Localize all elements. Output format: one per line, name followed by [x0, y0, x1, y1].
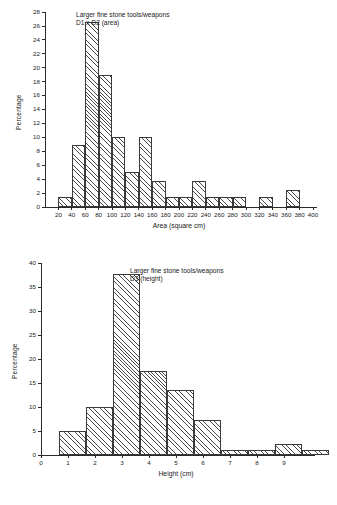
- x-tick: [232, 207, 233, 210]
- x-tick: [205, 207, 206, 210]
- x-tick-label: 6: [193, 460, 213, 466]
- bar: [112, 137, 125, 207]
- chart-annotation: Larger fine stone tools/weapons D3 (heig…: [130, 267, 223, 284]
- bar: [221, 450, 248, 455]
- bar: [179, 197, 192, 207]
- x-tick: [299, 207, 300, 210]
- x-tick: [138, 207, 139, 210]
- x-tick-label: 3: [112, 460, 132, 466]
- figure-two-histograms: 0246810121416182022242628204060801001201…: [0, 0, 337, 505]
- bars-layer: [0, 263, 337, 455]
- bar: [139, 137, 152, 207]
- bar: [113, 274, 140, 455]
- bars-layer: [0, 12, 337, 207]
- chart-height-histogram: 05101520253035400123456789PercentageHeig…: [0, 250, 337, 505]
- x-tick: [149, 455, 150, 458]
- x-tick-label: 1: [58, 460, 78, 466]
- x-tick: [284, 455, 285, 458]
- x-tick-label: 2: [85, 460, 105, 466]
- x-tick: [68, 455, 69, 458]
- bar: [248, 450, 275, 455]
- x-axis-title: Area (square cm): [45, 222, 313, 229]
- x-tick: [125, 207, 126, 210]
- x-tick: [257, 455, 258, 458]
- bar: [152, 181, 165, 207]
- x-tick: [41, 455, 42, 458]
- x-tick: [203, 455, 204, 458]
- bar: [286, 190, 299, 207]
- bar: [206, 197, 219, 207]
- x-tick-label: 8: [247, 460, 267, 466]
- x-tick: [165, 207, 166, 210]
- x-tick: [219, 207, 220, 210]
- x-tick: [259, 207, 260, 210]
- bar: [72, 145, 85, 207]
- y-axis-title: Percentage: [11, 343, 18, 379]
- bar: [192, 181, 205, 207]
- plot-region-area: 0246810121416182022242628204060801001201…: [0, 0, 337, 250]
- x-tick: [286, 207, 287, 210]
- x-tick: [313, 207, 314, 210]
- x-tick: [272, 207, 273, 210]
- x-tick: [246, 207, 247, 210]
- bar: [275, 444, 302, 455]
- bar: [166, 197, 179, 207]
- bar: [219, 197, 232, 207]
- x-tick: [112, 207, 113, 210]
- x-axis-line: [41, 455, 315, 456]
- x-tick-label: 400: [303, 212, 323, 218]
- bar: [59, 431, 86, 455]
- bar: [167, 390, 194, 455]
- bar: [125, 172, 138, 207]
- x-tick: [152, 207, 153, 210]
- x-tick: [85, 207, 86, 210]
- bar: [259, 197, 272, 207]
- x-tick: [71, 207, 72, 210]
- chart-annotation: Larger fine stone tools/weapons D1 x D2 …: [76, 11, 169, 28]
- x-tick: [122, 455, 123, 458]
- x-tick-label: 9: [274, 460, 294, 466]
- bar: [86, 407, 113, 455]
- bar: [194, 420, 221, 455]
- chart-area-histogram: 0246810121416182022242628204060801001201…: [0, 0, 337, 250]
- bar: [140, 371, 167, 455]
- x-tick-label: 0: [31, 460, 51, 466]
- bar: [85, 22, 98, 207]
- x-tick: [58, 207, 59, 210]
- bar: [58, 197, 71, 207]
- x-tick: [98, 207, 99, 210]
- x-tick-label: 5: [166, 460, 186, 466]
- y-axis-title: Percentage: [15, 94, 22, 130]
- x-axis-title: Height (cm): [41, 470, 311, 477]
- x-tick-label: 7: [220, 460, 240, 466]
- x-tick: [179, 207, 180, 210]
- x-tick-label: 4: [139, 460, 159, 466]
- bar: [302, 450, 329, 455]
- x-tick: [95, 455, 96, 458]
- x-tick: [230, 455, 231, 458]
- bar: [99, 75, 112, 207]
- x-tick: [192, 207, 193, 210]
- plot-region-height: 05101520253035400123456789PercentageHeig…: [0, 250, 337, 505]
- bar: [233, 197, 246, 207]
- x-tick: [176, 455, 177, 458]
